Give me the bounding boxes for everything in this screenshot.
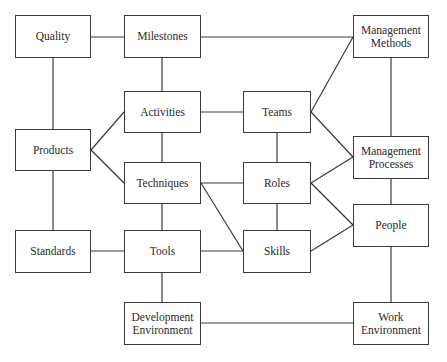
node-tools: Tools (124, 230, 201, 273)
node-roles: Roles (243, 162, 311, 204)
node-people: People (353, 204, 429, 247)
node-label: Tools (150, 245, 175, 258)
node-label: Roles (264, 177, 290, 190)
node-label: Management Methods (361, 24, 421, 50)
node-management-methods: Management Methods (353, 15, 429, 58)
node-work-environment: Work Environment (353, 302, 429, 345)
node-techniques: Techniques (124, 162, 201, 204)
node-teams: Teams (243, 91, 311, 133)
edge-roles-mgmt_processes (311, 157, 353, 183)
node-label: People (375, 219, 406, 232)
edge-roles-people (311, 183, 353, 225)
edge-techniques-skills (201, 183, 243, 251)
edge-skills-people (311, 225, 353, 251)
node-label: Skills (264, 245, 290, 258)
node-label: Teams (262, 106, 292, 119)
node-products: Products (15, 129, 91, 171)
node-standards: Standards (15, 230, 91, 273)
node-label: Quality (36, 30, 71, 43)
edge-products-techniques (91, 150, 124, 183)
node-activities: Activities (124, 91, 201, 133)
node-label: Techniques (136, 177, 188, 190)
concept-diagram: Quality Milestones Management Methods Ac… (0, 0, 447, 362)
node-label: Development Environment (132, 311, 194, 337)
node-management-processes: Management Processes (353, 136, 429, 179)
edge-teams-mgmt_methods (311, 37, 353, 112)
node-quality: Quality (15, 15, 91, 58)
edge-teams-mgmt_processes (311, 112, 353, 157)
node-development-environment: Development Environment (124, 302, 201, 345)
node-label: Milestones (137, 30, 187, 43)
edge-products-activities (91, 112, 124, 150)
node-label: Products (33, 144, 73, 157)
node-label: Standards (30, 245, 75, 258)
node-label: Activities (140, 106, 185, 119)
node-skills: Skills (243, 230, 311, 273)
node-label: Management Processes (361, 145, 421, 171)
node-milestones: Milestones (124, 15, 201, 58)
node-label: Work Environment (361, 311, 421, 337)
